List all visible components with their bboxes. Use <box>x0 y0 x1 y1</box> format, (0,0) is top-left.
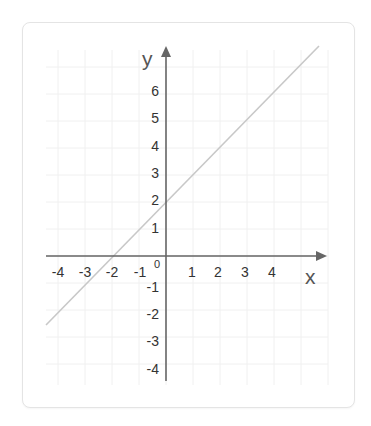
origin-label: 0 <box>154 258 160 270</box>
x-tick: -1 <box>134 264 147 280</box>
x-tick: -4 <box>52 264 65 280</box>
y-tick: -4 <box>147 361 160 377</box>
x-tick: 3 <box>241 264 249 280</box>
x-tick: 2 <box>214 264 222 280</box>
y-tick: -3 <box>147 333 160 349</box>
x-axis-label: x <box>305 265 316 288</box>
y-axis-arrow-icon <box>161 46 171 57</box>
x-axis <box>46 251 327 261</box>
grid <box>46 50 328 385</box>
y-tick: 1 <box>151 220 159 236</box>
x-axis-arrow-icon <box>316 251 327 261</box>
y-tick: 2 <box>151 192 159 208</box>
y-axis-label: y <box>142 47 153 70</box>
x-tick: -2 <box>106 264 119 280</box>
y-tick: -2 <box>147 306 160 322</box>
y-tick: 6 <box>151 83 159 99</box>
y-tick: -1 <box>147 279 160 295</box>
x-tick: -3 <box>79 264 92 280</box>
y-tick: 5 <box>151 110 159 126</box>
x-tick-labels: -4 -3 -2 -1 1 2 3 4 <box>52 264 276 280</box>
y-tick: 4 <box>151 138 159 154</box>
coordinate-plane: y x 0 -4 -3 -2 -1 1 2 3 4 6 5 4 3 2 1 -1… <box>0 0 371 426</box>
y-tick: 3 <box>151 165 159 181</box>
x-tick: 4 <box>268 264 276 280</box>
x-tick: 1 <box>188 264 196 280</box>
y-tick-labels: 6 5 4 3 2 1 -1 -2 -3 -4 <box>147 83 160 377</box>
y-axis <box>161 46 171 381</box>
